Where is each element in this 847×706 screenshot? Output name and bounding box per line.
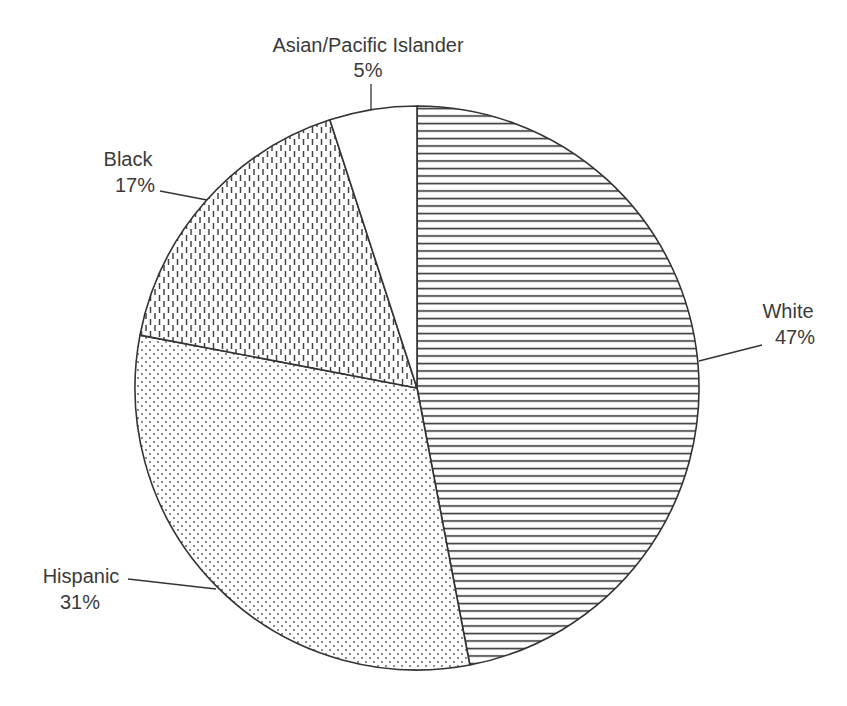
pie-slices — [135, 106, 699, 670]
label-white-name: White — [762, 300, 813, 322]
label-hispanic-name: Hispanic — [43, 565, 120, 587]
label-black-name: Black — [104, 148, 154, 170]
label-asian-value: 5% — [354, 59, 383, 81]
label-asian: Asian/Pacific Islander 5% — [272, 34, 464, 81]
leader-line-white — [699, 345, 762, 361]
pie-slice-white — [417, 106, 699, 665]
pie-chart: Asian/Pacific Islander 5% Black 17% Whit… — [0, 0, 847, 706]
cropped-caption-strip — [0, 700, 847, 706]
label-white: White 47% — [762, 300, 815, 348]
label-white-value: 47% — [775, 326, 815, 348]
leader-line-black — [160, 191, 207, 200]
label-hispanic: Hispanic 31% — [43, 565, 120, 613]
label-hispanic-value: 31% — [60, 591, 100, 613]
pie-chart-svg: Asian/Pacific Islander 5% Black 17% Whit… — [0, 0, 847, 706]
label-asian-name: Asian/Pacific Islander — [272, 34, 464, 56]
label-black-value: 17% — [115, 174, 155, 196]
label-black: Black 17% — [104, 148, 156, 196]
leader-line-hispanic — [128, 579, 216, 589]
